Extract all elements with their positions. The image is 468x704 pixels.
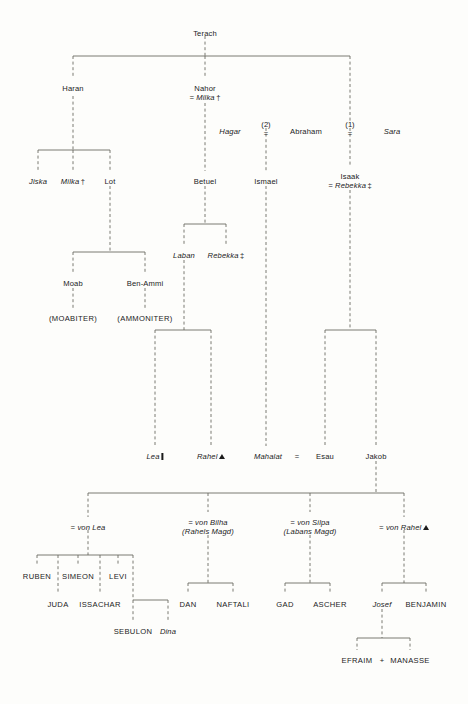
node-haran[interactable]: Haran <box>62 85 83 94</box>
node-benjamin[interactable]: BENJAMIN <box>405 601 446 610</box>
connector-lines <box>0 0 468 704</box>
node-levi[interactable]: LEVI <box>109 573 127 582</box>
node-gad[interactable]: GAD <box>276 601 294 610</box>
plus-sign: + <box>380 657 385 666</box>
node-label: Haran <box>62 84 83 93</box>
node-terach[interactable]: Terach <box>193 30 217 39</box>
union-von-rahel[interactable]: = von Rahel <box>379 524 429 533</box>
union-label: = von Bilha <box>188 518 227 527</box>
union-von-bilha[interactable]: = von Bilha (Rahels Magd) <box>182 519 234 536</box>
node-label: Abraham <box>290 127 322 136</box>
marriage-2-marker: (2) = <box>261 120 270 138</box>
node-label: Laban <box>173 251 195 260</box>
node-label: Dina <box>160 627 176 636</box>
node-label: Jiska <box>29 177 47 186</box>
family-tree-diagram: Terach Haran Nahor = Milka† Hagar (2) = … <box>0 0 468 704</box>
double-dagger-icon: ‡ <box>368 182 372 191</box>
node-ruben[interactable]: RUBEN <box>23 573 51 582</box>
node-label: Nahor <box>194 84 215 93</box>
node-label: EFRAIM <box>342 656 373 665</box>
node-manasse[interactable]: MANASSE <box>390 657 430 666</box>
node-hagar[interactable]: Hagar <box>219 128 240 137</box>
node-label: Terach <box>193 29 217 38</box>
union-label: = von Lea <box>71 523 106 532</box>
node-moab[interactable]: Moab <box>63 280 83 289</box>
equals-sign: = <box>345 129 354 138</box>
node-label: DAN <box>179 600 196 609</box>
node-milka[interactable]: Milka† <box>61 178 85 187</box>
node-esau[interactable]: Esau <box>316 453 334 462</box>
node-label: ISSACHAR <box>79 600 121 609</box>
marriage-order-label: (1) <box>345 120 354 129</box>
node-label: Hagar <box>219 127 240 136</box>
node-jiska[interactable]: Jiska <box>29 178 47 187</box>
node-isaak[interactable]: Isaak = Rebekka‡ <box>328 173 372 190</box>
node-sara[interactable]: Sara <box>384 128 401 137</box>
node-label: NAFTALI <box>216 600 249 609</box>
node-issachar[interactable]: ISSACHAR <box>79 601 121 610</box>
node-label: RUBEN <box>23 572 51 581</box>
node-label: Rahel <box>197 452 218 461</box>
node-label: GAD <box>276 600 294 609</box>
node-mahalat[interactable]: Mahalat <box>254 453 282 462</box>
node-dina[interactable]: Dina <box>160 628 176 637</box>
node-label: ASCHER <box>313 600 347 609</box>
node-jakob[interactable]: Jakob <box>365 453 386 462</box>
node-spouse-milka: = Milka† <box>189 94 220 103</box>
node-ascher[interactable]: ASCHER <box>313 601 347 610</box>
union-sublabel: (Labans Magd) <box>283 528 336 537</box>
node-sebulon[interactable]: SEBULON <box>114 628 153 637</box>
node-spouse-rebekka: = Rebekka‡ <box>328 182 372 191</box>
node-label: (MOABITER) <box>49 314 97 323</box>
node-ammoniter[interactable]: (AMMONITER) <box>117 315 172 324</box>
node-label: Sara <box>384 127 401 136</box>
node-efraim[interactable]: EFRAIM <box>342 657 373 666</box>
node-rahel[interactable]: Rahel <box>197 453 225 462</box>
node-betuel[interactable]: Betuel <box>194 178 216 187</box>
equals-sign: = <box>261 129 270 138</box>
node-label: Esau <box>316 452 334 461</box>
node-label: Ben-Ammi <box>127 279 164 288</box>
marriage-order-label: (2) <box>261 120 270 129</box>
node-laban[interactable]: Laban <box>173 252 195 261</box>
dagger-icon: † <box>81 178 85 187</box>
node-ben-ammi[interactable]: Ben-Ammi <box>127 280 164 289</box>
union-von-lea[interactable]: = von Lea <box>71 524 106 533</box>
union-sublabel: (Rahels Magd) <box>182 528 234 537</box>
node-label: SIMEON <box>62 572 94 581</box>
node-lot[interactable]: Lot <box>104 178 115 187</box>
node-label: Lea <box>146 452 159 461</box>
union-von-silpa[interactable]: = von Silpa (Labans Magd) <box>283 519 336 536</box>
double-dagger-icon: ‡ <box>240 252 244 261</box>
node-label: JUDA <box>47 600 68 609</box>
node-label: BENJAMIN <box>405 600 446 609</box>
node-moabiter[interactable]: (MOABITER) <box>49 315 97 324</box>
union-label: = von Silpa <box>290 518 329 527</box>
node-lea[interactable]: Lea <box>146 453 163 462</box>
node-rebekka[interactable]: Rebekka‡ <box>208 252 245 261</box>
dagger-icon: † <box>216 94 220 103</box>
triangle-marker-icon <box>219 454 225 459</box>
node-label: + <box>380 656 385 665</box>
node-label: Isaak <box>341 172 360 181</box>
bar-marker-icon <box>161 453 164 459</box>
node-label: Josef <box>373 600 392 609</box>
node-abraham[interactable]: Abraham <box>290 128 322 137</box>
node-simeon[interactable]: SIMEON <box>62 573 94 582</box>
node-ismael[interactable]: Ismael <box>254 178 277 187</box>
node-label: SEBULON <box>114 627 153 636</box>
node-label: (AMMONITER) <box>117 314 172 323</box>
node-label: Moab <box>63 279 83 288</box>
node-josef[interactable]: Josef <box>373 601 392 610</box>
node-label: Rebekka <box>208 251 239 260</box>
node-label: Jakob <box>365 452 386 461</box>
node-label: Ismael <box>254 177 277 186</box>
esau-marriage-equals: = <box>295 453 300 462</box>
node-nahor[interactable]: Nahor = Milka† <box>189 85 220 102</box>
union-label: = von Rahel <box>379 523 421 532</box>
node-juda[interactable]: JUDA <box>47 601 68 610</box>
node-naftali[interactable]: NAFTALI <box>216 601 249 610</box>
node-dan[interactable]: DAN <box>179 601 196 610</box>
marriage-1-marker: (1) = <box>345 120 354 138</box>
node-label: Betuel <box>194 177 216 186</box>
